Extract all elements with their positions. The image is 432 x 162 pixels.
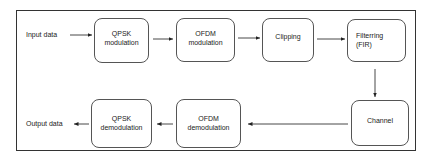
filtering-fir-box: Filterring (FIR) (347, 19, 406, 62)
node-line: QPSK (112, 29, 131, 38)
node-line: Clipping (275, 32, 300, 41)
qpsk-demodulation-box: QPSK demodulation (91, 99, 152, 148)
output-data-label: Output data (26, 120, 63, 127)
ofdm-modulation-box: OFDM modulation (176, 18, 235, 62)
node-line: QPSK (112, 114, 131, 123)
node-line: modulation (104, 38, 138, 47)
node-line: (FIR) (356, 40, 372, 49)
node-line: Channel (367, 116, 393, 125)
channel-box: Channel (351, 100, 409, 146)
input-data-label: Input data (26, 31, 57, 38)
node-line: OFDM (195, 29, 216, 38)
clipping-box: Clipping (262, 18, 314, 62)
node-line: demodulation (100, 123, 142, 132)
ofdm-demodulation-box: OFDM demodulation (176, 99, 241, 148)
node-line: modulation (188, 38, 222, 47)
qpsk-modulation-box: QPSK modulation (94, 18, 149, 63)
node-line: Filterring (356, 31, 383, 40)
node-line: OFDM (198, 114, 219, 123)
node-line: demodulation (187, 123, 229, 132)
